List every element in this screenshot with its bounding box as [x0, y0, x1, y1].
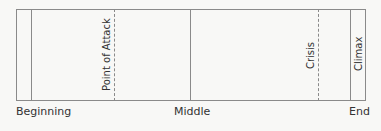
crisis-label: Crisis — [305, 42, 316, 69]
climax-line — [350, 9, 351, 101]
crisis-line — [318, 9, 319, 101]
climax-label: Climax — [353, 37, 364, 71]
beginning-label: Beginning — [16, 105, 71, 118]
middle-divider — [190, 9, 191, 101]
point-of-attack-line — [114, 9, 115, 101]
middle-label: Middle — [174, 105, 210, 118]
end-label: End — [349, 105, 370, 118]
point-of-attack-label: Point of Attack — [101, 18, 112, 91]
beginning-divider — [31, 9, 32, 101]
